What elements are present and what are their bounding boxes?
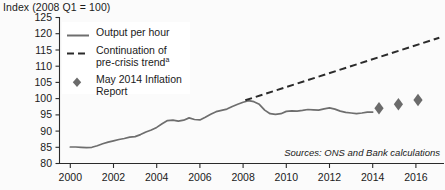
diamond-marker-icon [66,74,92,86]
xtick-label-2016: 2016 [396,172,436,183]
y-tick-marks [56,18,60,164]
ytick-label-110: 110 [22,61,52,72]
ytick-label-105: 105 [22,77,52,88]
legend-label-output-per-hour: Output per hour [96,27,170,39]
series-precrisis-trend [245,38,439,101]
xtick-label-2002: 2002 [94,172,134,183]
dashed-line-icon [66,45,92,57]
xtick-label-2000: 2000 [50,172,90,183]
legend-label-may2014-line1: May 2014 Inflation [96,74,182,86]
legend-label-precrisis-trend-line1: Continuation of [96,45,167,57]
chart-legend: Output per hour Continuation of pre-cris… [62,22,190,94]
ytick-label-95: 95 [22,109,52,120]
legend-footnote-marker: a [165,56,169,63]
xtick-label-2012: 2012 [310,172,350,183]
ytick-label-120: 120 [22,28,52,39]
xtick-label-2008: 2008 [223,172,263,183]
xtick-label-2010: 2010 [266,172,306,183]
xtick-label-2004: 2004 [137,172,177,183]
xtick-label-2006: 2006 [180,172,220,183]
series-output-per-hour [70,101,372,148]
xtick-label-2014: 2014 [353,172,393,183]
x-tick-marks [70,164,416,169]
legend-label-precrisis-trend-line2: pre-crisis trenda [96,57,169,69]
ytick-label-85: 85 [22,142,52,153]
ytick-label-125: 125 [22,12,52,23]
ytick-label-80: 80 [22,158,52,169]
legend-label-precrisis-trend-text: pre-crisis trend [96,56,165,68]
series-may2014-markers [374,94,422,115]
legend-label-may2014-line2: Report [96,86,128,98]
chart-figure: Index (2008 Q1 = 100) [0,0,445,190]
solid-line-icon [66,27,92,39]
ytick-label-115: 115 [22,45,52,56]
ytick-label-100: 100 [22,93,52,104]
ytick-label-90: 90 [22,126,52,137]
chart-sources-note: Sources: ONS and Bank calculations [284,147,440,158]
